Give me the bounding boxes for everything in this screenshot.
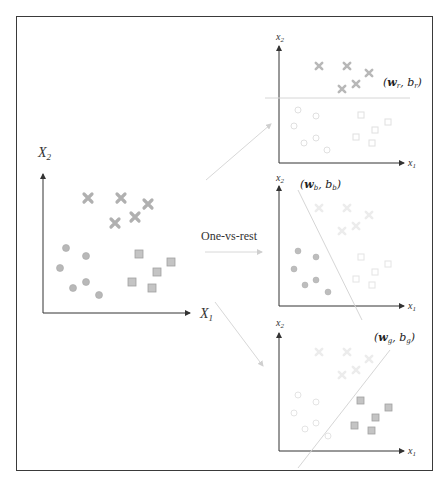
panel-red: x2 x1 (wr, br) (265, 31, 422, 170)
y-axis-label: X2 (37, 145, 52, 162)
circle-markers (291, 248, 331, 295)
square-markers-faded (353, 112, 391, 146)
x-axis-label: X1 (199, 306, 213, 323)
square-markers-faded (353, 254, 391, 288)
square-markers (351, 397, 392, 434)
transition-arrows: One-vs-rest (201, 124, 271, 366)
param-label-red: (wr, br) (383, 76, 422, 90)
x-axis-label: x1 (407, 300, 416, 313)
square-markers (128, 250, 175, 292)
circle-markers (57, 245, 103, 299)
panel-blue: x2 x1 (wb, bb) (275, 172, 416, 320)
one-vs-rest-diagram: X2 X1 One-vs-rest x2 x1 (wr (0, 0, 448, 483)
separator-line (298, 350, 390, 468)
param-label-green: (wg, bg) (374, 331, 415, 345)
cross-markers-faded (316, 349, 372, 378)
circle-markers-faded (291, 107, 330, 153)
cross-markers (316, 63, 372, 92)
y-axis-label: x2 (275, 31, 284, 44)
separator-line (298, 190, 362, 320)
cross-markers (84, 194, 152, 227)
x-axis-label: x1 (407, 157, 416, 170)
y-axis-label: x2 (275, 317, 284, 330)
circle-markers-faded (291, 392, 331, 439)
y-axis-label: x2 (275, 172, 284, 185)
arrow-to-red-panel (206, 124, 271, 180)
arrow-to-green-panel (215, 302, 263, 366)
x-axis-label: x1 (407, 445, 416, 458)
param-label-blue: (wb, bb) (300, 178, 341, 192)
method-label: One-vs-rest (201, 229, 258, 243)
cross-markers-faded (316, 205, 372, 234)
main-plot: X2 X1 (37, 145, 213, 323)
panel-green: x2 x1 (wg, bg) (275, 317, 416, 468)
